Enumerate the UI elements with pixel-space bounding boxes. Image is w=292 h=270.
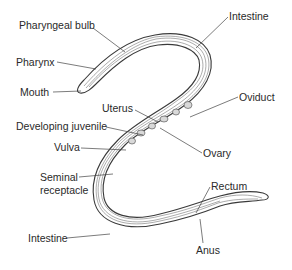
label-developing-juvenile: Developing juvenile: [16, 120, 107, 132]
label-oviduct: Oviduct: [239, 91, 275, 103]
label-seminal-receptacle-1: Seminal: [40, 171, 78, 183]
label-vulva: Vulva: [54, 141, 80, 153]
label-seminal-receptacle-2: receptacle: [40, 184, 89, 196]
label-intestine-bottom: Intestine: [28, 232, 68, 244]
label-anus: Anus: [196, 244, 220, 256]
label-rectum: Rectum: [211, 180, 247, 192]
label-mouth: Mouth: [20, 86, 49, 98]
nematode-diagram: Pharyngeal bulb Pharynx Mouth Intestine …: [0, 0, 292, 270]
label-pharynx: Pharynx: [16, 56, 55, 68]
label-ovary: Ovary: [203, 147, 232, 159]
label-pharyngeal-bulb: Pharyngeal bulb: [19, 19, 95, 31]
labels: Pharyngeal bulb Pharynx Mouth Intestine …: [16, 10, 275, 256]
label-uterus: Uterus: [102, 102, 133, 114]
label-intestine-top: Intestine: [229, 10, 269, 22]
eggs: [129, 102, 193, 145]
